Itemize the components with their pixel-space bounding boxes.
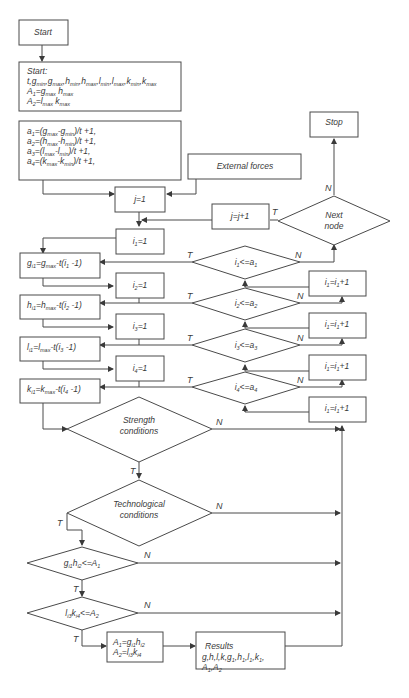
increment-box-2: i1=i1+1	[309, 313, 366, 338]
svg-text:a4=(kmax-kmin)/t +1,: a4=(kmax-kmin)/t +1,	[27, 156, 95, 167]
svg-text:N: N	[297, 375, 304, 385]
results-box: Results g,h,l,k,g1,h1,l1,k1, A1,A2	[196, 632, 285, 673]
svg-text:node: node	[325, 221, 344, 231]
init-params-box: Start: t,gmin,gmax,hmin,hmax,lmin,lmax,k…	[19, 62, 181, 111]
stop-node: Stop	[310, 112, 358, 137]
i4-init-box: i4=1	[116, 356, 164, 381]
svg-text:Results: Results	[205, 641, 234, 651]
svg-text:a1=(gmax-gmin)/t +1,: a1=(gmax-gmin)/t +1,	[27, 126, 96, 137]
k-assign-box: ki1=kmax-t(i4 -1)	[20, 379, 100, 403]
steps-box: a1=(gmax-gmin)/t +1, a2=(hmax-hmin)/t +1…	[19, 121, 181, 180]
svg-text:A1=gi1hi2: A1=gi1hi2	[112, 637, 145, 648]
increment-box-1: i1=i1+1	[309, 271, 366, 296]
svg-text:T: T	[187, 250, 194, 260]
svg-text:Next: Next	[325, 210, 343, 220]
increment-box-3: i1=i1+1	[309, 355, 366, 380]
svg-text:T: T	[187, 375, 194, 385]
svg-text:Strength: Strength	[123, 415, 155, 425]
g-assign-box: gi1=gmax-t(i1 -1)	[20, 253, 100, 278]
j-increment-box: j=j+1	[212, 204, 269, 229]
next-node-decision: Next node	[278, 196, 390, 245]
update-A-box: A1=gi1hi2 A2=li3ki4	[107, 632, 163, 662]
svg-text:a2=(hmax-hmin)/t +1,: a2=(hmax-hmin)/t +1,	[27, 136, 96, 147]
svg-text:N: N	[325, 183, 332, 193]
svg-text:T: T	[187, 291, 194, 301]
svg-text:N: N	[144, 600, 151, 610]
start-node: Start	[19, 20, 68, 45]
i2-init-box: i2=1	[116, 273, 164, 298]
svg-text:li1=lmax-t(i3 -1): li1=lmax-t(i3 -1)	[27, 342, 76, 353]
i1-init-box: i1=1	[116, 229, 164, 254]
svg-text:Start: Start	[34, 27, 53, 37]
svg-text:j=j+1: j=j+1	[230, 211, 250, 221]
svg-text:Stop: Stop	[325, 117, 343, 127]
svg-text:conditions: conditions	[120, 510, 159, 520]
svg-text:T: T	[272, 207, 279, 217]
cond-A2-decision: li3ki4<=A2	[27, 597, 138, 630]
svg-text:N: N	[216, 417, 223, 427]
flowchart: Start Start: t,gmin,gmax,hmin,hmax,lmin,…	[0, 0, 409, 698]
svg-text:N: N	[216, 501, 223, 511]
svg-text:T: T	[73, 584, 80, 594]
svg-text:N: N	[295, 250, 302, 260]
cond-i1-decision: i1<=a1	[192, 246, 300, 279]
i3-init-box: i3=1	[116, 314, 164, 339]
svg-text:N: N	[297, 333, 304, 343]
l-assign-box: li1=lmax-t(i3 -1)	[20, 337, 100, 361]
svg-text:T: T	[57, 518, 64, 528]
svg-text:External forces: External forces	[217, 161, 274, 171]
strength-conditions-decision: Strength conditions	[67, 397, 212, 462]
svg-text:T: T	[187, 333, 194, 343]
cond-i2-decision: i2<=a2	[192, 288, 300, 320]
svg-text:T: T	[130, 466, 137, 476]
technological-conditions-decision: Technological conditions	[67, 480, 212, 546]
h-assign-box: hi1=hmax-t(i2 -1)	[20, 295, 100, 319]
svg-text:A1,A2: A1,A2	[201, 662, 222, 673]
svg-text:N: N	[144, 550, 151, 560]
external-forces-box: External forces	[188, 154, 301, 179]
cond-i3-decision: i3<=a3	[192, 329, 300, 362]
svg-text:T: T	[73, 634, 80, 644]
svg-text:Technological: Technological	[113, 499, 166, 509]
svg-text:conditions: conditions	[120, 426, 159, 436]
svg-text:Start:: Start:	[27, 66, 48, 76]
cond-i4-decision: i4<=a4	[192, 372, 300, 404]
j-init-box: j=1	[115, 187, 165, 212]
svg-text:j=1: j=1	[133, 194, 146, 204]
cond-A1-decision: gi1hi2<=A1	[27, 547, 138, 580]
svg-text:a3=(lmax-lmin)/t +1,: a3=(lmax-lmin)/t +1,	[27, 146, 90, 157]
svg-text:N: N	[297, 291, 304, 301]
svg-text:A2=li3ki4: A2=li3ki4	[112, 647, 141, 658]
increment-box-4: i1=i1+1	[309, 397, 366, 422]
